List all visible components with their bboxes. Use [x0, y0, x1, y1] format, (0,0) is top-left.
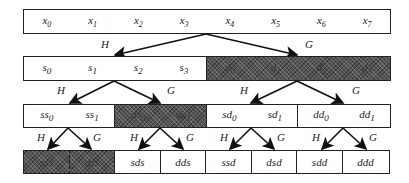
- ss-block: ss0 ss1: [23, 104, 116, 128]
- coefficient-label: ss0: [40, 108, 53, 123]
- coefficient-label: dds: [175, 156, 190, 168]
- coefficient-label: x1: [88, 14, 97, 29]
- coefficient-label: x5: [271, 14, 280, 29]
- coefficient-label: s0: [42, 61, 51, 76]
- filter-label-h: H: [101, 38, 109, 50]
- coefficient-label: ddd: [357, 156, 374, 168]
- coefficient-label: dss: [85, 156, 99, 168]
- coefficient-label: ss1: [86, 108, 99, 123]
- coefficient-label: x7: [363, 14, 372, 29]
- dds-block: dds: [160, 150, 207, 174]
- signal-block: x0 x1 x2 x3 x4 x5 x6 x7: [23, 9, 391, 34]
- level0-row: x0 x1 x2 x3 x4 x5 x6 x7: [23, 9, 391, 34]
- coefficient-label: dsd: [266, 156, 281, 168]
- arrow-h-level0: [115, 34, 206, 55]
- smooth-block: s0 s1 s2 s3: [23, 56, 208, 81]
- filter-label-g: G: [186, 131, 194, 143]
- ssd-block: ssd: [205, 150, 252, 174]
- coefficient-label: sdd: [312, 156, 327, 168]
- coefficient-label: x0: [42, 14, 51, 29]
- level3-row: sss dss sds dds ssd dsd sdd ddd: [23, 150, 391, 174]
- filter-label-h: H: [220, 131, 228, 143]
- sdd-block: sdd: [296, 150, 343, 174]
- filter-label-h: H: [130, 131, 138, 143]
- sd-block: sd0 sd1: [206, 104, 299, 128]
- ddd-block: ddd: [342, 150, 390, 174]
- level2-row: ss0 ss1 ds0 ds1 sd0 sd1 dd0 dd1: [23, 104, 391, 128]
- coefficient-label: s2: [134, 61, 143, 76]
- filter-label-g: G: [93, 131, 101, 143]
- coefficient-label: x4: [225, 14, 234, 29]
- dd-block: dd0 dd1: [297, 104, 391, 128]
- detail-block-shaded: d0 d1 d2 d3: [206, 56, 391, 81]
- coefficient-label: x3: [180, 14, 189, 29]
- filter-label-h: H: [57, 84, 65, 96]
- sss-block-shaded: sss: [23, 150, 70, 174]
- coefficient-label: d3: [362, 61, 372, 76]
- coefficient-label: x6: [317, 14, 326, 29]
- filter-label-g: G: [277, 131, 285, 143]
- coefficient-label: dd0: [313, 108, 329, 123]
- dsd-block: dsd: [251, 150, 298, 174]
- coefficient-label: ds1: [176, 108, 190, 123]
- coefficient-label: d0: [225, 61, 235, 76]
- arrow-g-level0: [206, 34, 297, 55]
- coefficient-label: x2: [134, 14, 143, 29]
- filter-label-h: H: [37, 131, 45, 143]
- filter-label-g: G: [352, 84, 360, 96]
- coefficient-label: s3: [179, 61, 188, 76]
- ds-block-shaded: ds0 ds1: [114, 104, 207, 128]
- coefficient-label: sss: [40, 156, 53, 168]
- filter-label-h: H: [312, 131, 320, 143]
- sds-block: sds: [114, 150, 161, 174]
- coefficient-label: sds: [130, 156, 144, 168]
- coefficient-label: ds0: [131, 108, 145, 123]
- filter-label-g: G: [305, 38, 313, 50]
- dss-block-shaded: dss: [69, 150, 116, 174]
- coefficient-label: d1: [271, 61, 281, 76]
- coefficient-label: ssd: [221, 156, 235, 168]
- coefficient-label: d2: [316, 61, 326, 76]
- filter-label-h: H: [240, 84, 248, 96]
- coefficient-label: sd0: [222, 108, 236, 123]
- level1-row: s0 s1 s2 s3 d0 d1 d2 d3: [23, 56, 391, 81]
- filter-label-g: G: [167, 84, 175, 96]
- coefficient-label: s1: [88, 61, 97, 76]
- coefficient-label: dd1: [359, 108, 375, 123]
- coefficient-label: sd1: [268, 108, 282, 123]
- filter-label-g: G: [369, 131, 377, 143]
